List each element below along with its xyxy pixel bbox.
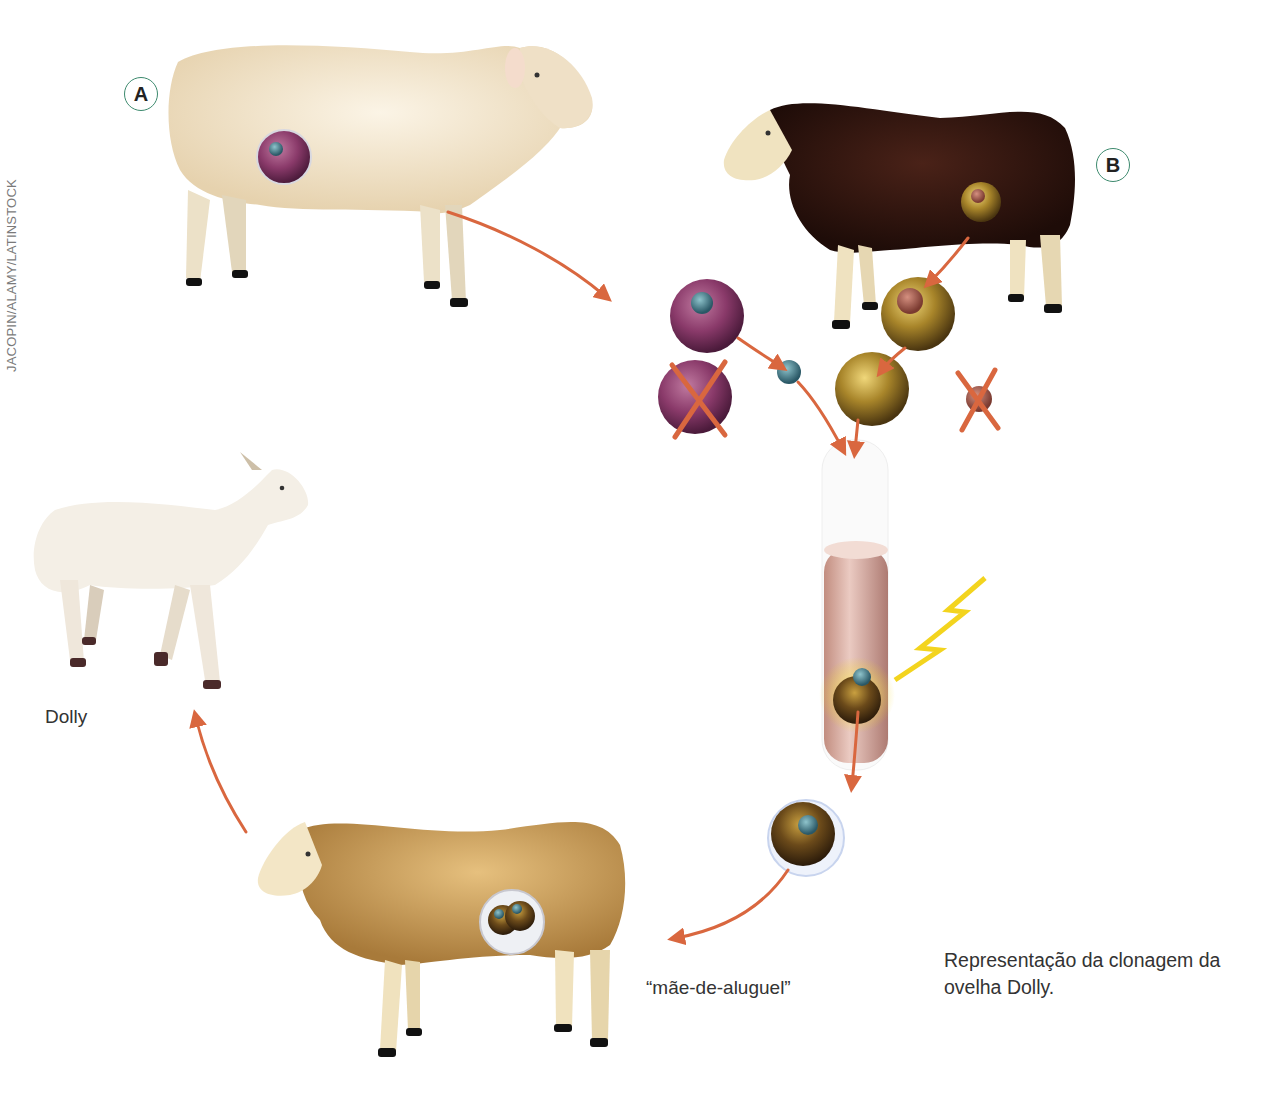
badge-b: B [1096,148,1130,182]
badge-b-label: B [1106,154,1120,177]
surrogate-sheep-illustration [258,822,625,1057]
arrow-surrogate-to-dolly [196,718,246,832]
cloning-diagram [0,0,1279,1101]
arrow-a-to-cells [448,212,605,296]
cell-manipulation [658,277,998,437]
caption-line-2: ovelha Dolly. [944,974,1279,1001]
figure-caption: Representação da clonagem da ovelha Doll… [944,947,1279,1001]
arrow-embryo-to-surrogate [676,870,788,938]
badge-a: A [124,77,158,111]
lightning-icon [895,578,985,680]
lamb-dolly-illustration [34,452,308,689]
arrow-nucleus-extract [738,338,780,366]
label-surrogate: “mãe-de-aluguel” [646,977,791,999]
test-tube [819,440,985,770]
label-dolly: Dolly [45,706,87,728]
caption-line-1: Representação da clonagem da [944,947,1279,974]
embryo [768,800,844,876]
badge-a-label: A [134,83,148,106]
sheep-a-illustration [168,45,592,307]
photo-credit: JACOPIN/ALAMY/LATINSTOCK [4,179,19,372]
